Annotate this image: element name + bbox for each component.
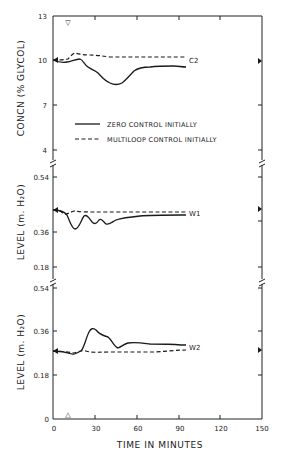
tick-0: 0 bbox=[45, 416, 49, 424]
tick-0.18: 0.18 bbox=[33, 264, 49, 272]
tick-0.18: 0.18 bbox=[33, 372, 49, 380]
w1-multiloop-control-line bbox=[53, 210, 186, 214]
series-label-c2: C2 bbox=[189, 57, 198, 65]
y-tick-labels-bottom: 0.54 0.36 0.18 0 bbox=[33, 285, 49, 424]
tick-0.36: 0.36 bbox=[33, 328, 49, 336]
xtick-150: 150 bbox=[255, 425, 268, 433]
right-arrow-marker-c2 bbox=[258, 58, 262, 64]
x-ticks bbox=[95, 16, 220, 419]
tick-0.54: 0.54 bbox=[33, 174, 49, 182]
x-tick-labels: 0 30 60 90 120 150 bbox=[52, 425, 269, 433]
tick-4: 4 bbox=[43, 147, 48, 155]
panel-w1: W1 bbox=[53, 207, 200, 229]
x-axis-label: TIME IN MINUTES bbox=[116, 440, 203, 450]
w1-zero-control-line bbox=[53, 210, 186, 229]
y-ticks bbox=[53, 60, 262, 375]
w2-zero-control-line bbox=[53, 329, 186, 355]
panel-c2: C2 bbox=[53, 53, 198, 85]
tick-7: 7 bbox=[43, 102, 47, 110]
chart-figure: 13 10 7 4 0.54 0.36 0.18 0.54 0.36 0.18 … bbox=[0, 0, 282, 455]
xtick-30: 30 bbox=[92, 425, 101, 433]
axis-break-marker bbox=[50, 160, 56, 163]
series-label-w1: W1 bbox=[189, 210, 200, 218]
xtick-60: 60 bbox=[134, 425, 143, 433]
xtick-0: 0 bbox=[52, 425, 56, 433]
tick-10: 10 bbox=[38, 57, 47, 65]
arrow-icon bbox=[53, 57, 58, 63]
tick-0.36: 0.36 bbox=[33, 229, 49, 237]
c2-zero-control-line bbox=[53, 59, 186, 85]
arrow-icon bbox=[53, 348, 58, 354]
tick-13: 13 bbox=[38, 13, 47, 21]
triangle-up-icon: △ bbox=[65, 411, 71, 419]
series-label-w2: W2 bbox=[189, 344, 200, 352]
w2-multiloop-control-line bbox=[53, 350, 186, 353]
panel-w2: W2 bbox=[53, 329, 200, 355]
y-axis-label-concentration: CONCN (% GLYCOL) bbox=[16, 40, 26, 137]
triangle-down-icon: ▽ bbox=[65, 19, 71, 27]
xtick-90: 90 bbox=[176, 425, 185, 433]
legend-label-zero-control: ZERO CONTROL INITIALLY bbox=[107, 121, 197, 129]
tick-0.54: 0.54 bbox=[33, 285, 49, 293]
legend-label-multiloop-control: MULTILOOP CONTROL INITIALLY bbox=[107, 136, 217, 144]
arrow-icon bbox=[53, 207, 58, 213]
y-tick-labels-mid: 0.54 0.36 0.18 bbox=[33, 174, 49, 272]
right-arrow-marker-w1 bbox=[258, 206, 262, 212]
y-axis-label-level-w1: LEVEL (m. H₂O) bbox=[16, 184, 26, 260]
y-axis-label-level-w2: LEVEL (m. H₂O) bbox=[16, 314, 26, 390]
legend: ZERO CONTROL INITIALLY MULTILOOP CONTROL… bbox=[75, 121, 217, 144]
right-arrow-marker-w2 bbox=[258, 347, 262, 353]
y-tick-labels-top: 13 10 7 4 bbox=[38, 13, 47, 155]
axes-frame bbox=[50, 16, 265, 419]
c2-multiloop-control-line bbox=[53, 53, 186, 60]
xtick-120: 120 bbox=[214, 425, 227, 433]
